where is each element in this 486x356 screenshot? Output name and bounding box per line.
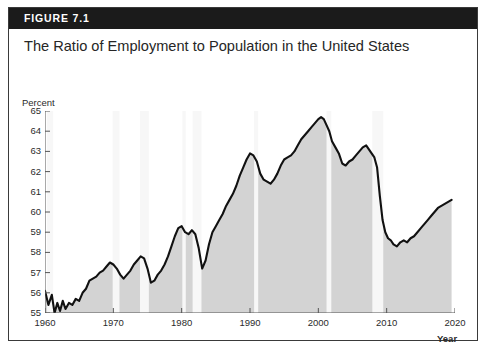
y-tick-label: 63 bbox=[25, 145, 41, 156]
x-axis-title: Year bbox=[437, 333, 457, 344]
y-tick-label: 59 bbox=[25, 226, 41, 237]
y-tick-label: 60 bbox=[25, 206, 41, 217]
x-tick-label: 1960 bbox=[28, 317, 62, 328]
recession-band-2 bbox=[140, 111, 149, 313]
y-tick-label: 65 bbox=[25, 105, 41, 116]
y-tick-label: 64 bbox=[25, 125, 41, 136]
employment-population-ratio-chart bbox=[45, 111, 455, 313]
figure-header-bar: FIGURE 7.1 bbox=[9, 8, 477, 29]
x-tick-label: 1980 bbox=[165, 317, 199, 328]
y-tick-label: 61 bbox=[25, 186, 41, 197]
recession-band-5 bbox=[254, 111, 258, 313]
y-tick-label: 62 bbox=[25, 166, 41, 177]
figure-title: The Ratio of Employment to Population in… bbox=[24, 37, 424, 57]
x-tick-label: 2000 bbox=[301, 317, 335, 328]
recession-band-1 bbox=[113, 111, 120, 313]
x-tick-label: 2020 bbox=[438, 317, 472, 328]
figure-card: FIGURE 7.1 The Ratio of Employment to Po… bbox=[8, 7, 478, 341]
y-tick-label: 57 bbox=[25, 267, 41, 278]
y-tick-label: 56 bbox=[25, 287, 41, 298]
x-tick-label: 1990 bbox=[233, 317, 267, 328]
recession-band-6 bbox=[327, 111, 332, 313]
chart-plot-area bbox=[45, 111, 455, 313]
figure-number-label: FIGURE 7.1 bbox=[24, 12, 90, 24]
recession-band-4 bbox=[193, 111, 202, 313]
x-tick-label: 1970 bbox=[96, 317, 130, 328]
recession-band-3 bbox=[182, 111, 185, 313]
x-tick-label: 2010 bbox=[370, 317, 404, 328]
y-tick-label: 58 bbox=[25, 246, 41, 257]
